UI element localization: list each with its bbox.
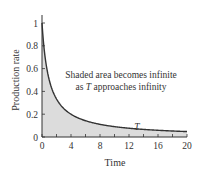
- annotation-line2: as T approaches infinity: [75, 82, 166, 92]
- x-tick-label: 12: [124, 141, 134, 151]
- x-tick-label: 0: [40, 141, 45, 151]
- x-axis-label: Time: [105, 157, 126, 168]
- t-marker-label: T: [134, 122, 140, 132]
- chart: 04812162000.20.40.60.81 Production rate …: [0, 0, 205, 177]
- x-tick-label: 20: [182, 141, 192, 151]
- y-tick-label: 0.6: [26, 64, 38, 74]
- y-tick-label: 0.2: [26, 110, 38, 120]
- x-tick-label: 16: [153, 141, 163, 151]
- y-axis-label: Production rate: [10, 49, 21, 111]
- y-tick-label: 0.4: [26, 87, 38, 97]
- y-tick-label: 1: [33, 19, 38, 29]
- x-tick-label: 4: [69, 141, 74, 151]
- y-tick-label: 0.8: [26, 41, 38, 51]
- x-tick-label: 8: [98, 141, 103, 151]
- annotation-line1: Shaded area becomes infinite: [65, 70, 177, 80]
- y-tick-label: 0: [33, 133, 38, 143]
- shaded-area: [42, 23, 187, 137]
